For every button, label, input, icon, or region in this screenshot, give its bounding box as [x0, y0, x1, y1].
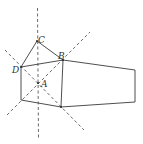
diagonal-ab-dashed-line	[7, 32, 90, 115]
point-f	[60, 106, 62, 108]
geometry-figure: C B D A	[0, 0, 143, 144]
label-a: A	[40, 79, 48, 89]
point-a	[37, 82, 39, 84]
edge-b-top-right	[63, 60, 135, 70]
point-d	[20, 66, 22, 68]
edge-bottom-left-f	[21, 100, 61, 107]
label-b: B	[57, 51, 65, 61]
vertical-axis-dashed-line	[38, 8, 39, 138]
edge-f-bottom-right	[61, 102, 135, 107]
label-c: C	[38, 35, 45, 45]
label-d: D	[11, 65, 19, 75]
edge-db	[21, 60, 63, 67]
edge-b-f	[61, 60, 63, 107]
diagonal-db-dashed-line	[5, 50, 84, 130]
